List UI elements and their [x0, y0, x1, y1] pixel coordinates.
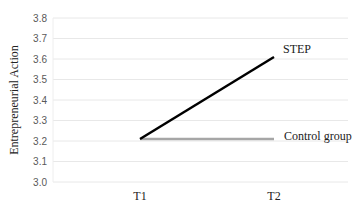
series-line-step [140, 57, 274, 139]
y-axis-label: Entrepreneurial Action [7, 45, 21, 155]
y-tick-label: 3.0 [33, 177, 47, 188]
y-tick-label: 3.1 [33, 156, 47, 167]
y-tick-label: 3.4 [33, 95, 47, 106]
series-label-step: STEP [283, 42, 311, 56]
line-chart: 3.03.13.23.33.43.53.63.73.8 Entrepreneur… [0, 0, 363, 213]
y-tick-label: 3.8 [33, 13, 47, 24]
x-tick-label: T1 [133, 189, 146, 203]
series-lines [140, 57, 274, 139]
y-tick-label: 3.2 [33, 136, 47, 147]
y-tick-label: 3.3 [33, 115, 47, 126]
y-tick-label: 3.6 [33, 54, 47, 65]
x-tick-label: T2 [267, 189, 280, 203]
y-tick-label: 3.5 [33, 74, 47, 85]
y-axis-ticks: 3.03.13.23.33.43.53.63.73.8 [33, 13, 47, 188]
series-labels: STEPControl group [283, 42, 352, 143]
y-tick-label: 3.7 [33, 33, 47, 44]
series-label-control-group: Control group [284, 129, 352, 143]
x-axis-ticks: T1T2 [133, 189, 280, 203]
